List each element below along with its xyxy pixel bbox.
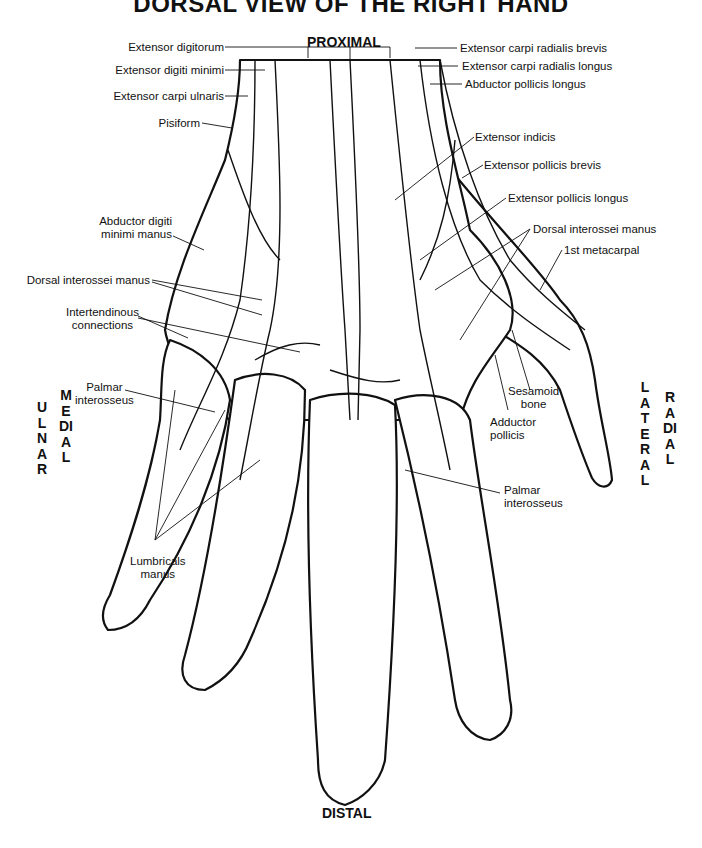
label-palmar-interosseus-left: Palmar interosseus	[75, 381, 134, 407]
label-sesamoid-bone: Sesamoid bone	[508, 385, 559, 411]
label-first-metacarpal: 1st metacarpal	[564, 244, 639, 257]
label-extensor-carpi-radialis-brevis: Extensor carpi radialis brevis	[460, 42, 607, 55]
label-extensor-digiti-minimi: Extensor digiti minimi	[115, 64, 224, 77]
label-pisiform: Pisiform	[158, 117, 200, 130]
label-extensor-carpi-radialis-longus: Extensor carpi radialis longus	[462, 60, 612, 73]
label-extensor-indicis: Extensor indicis	[475, 131, 556, 144]
label-extensor-digitorum: Extensor digitorum	[128, 41, 224, 54]
label-extensor-pollicis-brevis: Extensor pollicis brevis	[484, 159, 601, 172]
label-palmar-interosseus-right: Palmar interosseus	[504, 484, 563, 510]
label-dorsal-interossei-manus-right: Dorsal interossei manus	[533, 223, 656, 236]
label-abductor-digiti-minimi-manus: Abductor digiti minimi manus	[99, 215, 172, 241]
label-lumbricals-manus: Lumbricals manus	[130, 555, 186, 581]
label-adductor-pollicis: Adductor pollicis	[490, 416, 536, 442]
label-intertendinous-connections: Intertendinous connections	[66, 306, 139, 332]
label-abductor-pollicis-longus: Abductor pollicis longus	[465, 78, 586, 91]
label-extensor-pollicis-longus: Extensor pollicis longus	[508, 192, 628, 205]
index-finger	[395, 395, 511, 740]
label-extensor-carpi-ulnaris: Extensor carpi ulnaris	[113, 90, 224, 103]
label-dorsal-interossei-manus-left: Dorsal interossei manus	[27, 274, 150, 287]
hand-illustration	[0, 0, 702, 848]
middle-finger	[308, 394, 397, 805]
